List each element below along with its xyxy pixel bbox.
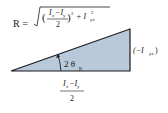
plus-i: + I bbox=[76, 12, 86, 21]
power-2: 2 bbox=[71, 11, 74, 16]
bottom-sub-y: y bbox=[77, 84, 80, 89]
bottom-denominator: 2 bbox=[70, 94, 74, 103]
angle-value: 2 θ bbox=[64, 59, 75, 69]
numerator-sub-y: y bbox=[63, 13, 66, 18]
vertical-leg-sub: yz bbox=[149, 51, 155, 56]
term-sub-yz: yz bbox=[90, 17, 96, 22]
vertical-leg-close: ) bbox=[155, 46, 158, 55]
vertical-leg-open: (−I bbox=[133, 46, 144, 55]
angle-sub: p bbox=[79, 65, 82, 71]
open-paren: ( bbox=[42, 11, 46, 24]
principal-angle-diagram: R = ( I z −I y 2 ) 2 + I yz 2 (−I yz ) 2… bbox=[0, 0, 168, 113]
denominator: 2 bbox=[56, 20, 60, 29]
term-power-2: 2 bbox=[91, 10, 94, 15]
r-prefix: R = bbox=[13, 18, 28, 29]
